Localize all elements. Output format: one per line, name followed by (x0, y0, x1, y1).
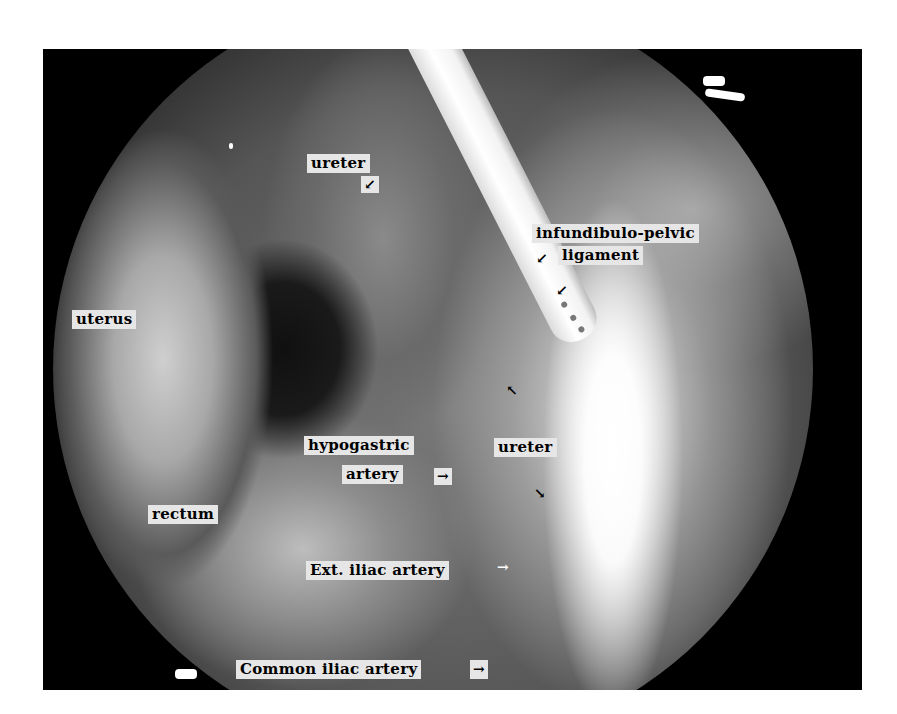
label-ureter-upper: ureter (307, 154, 370, 173)
arrow-ureter-upper-icon: ↙ (361, 176, 379, 193)
label-common-iliac-artery: Common iliac artery (236, 660, 421, 679)
arrow-ip-ligament-2-icon: ↙ (553, 282, 571, 299)
instrument-hole (569, 314, 577, 322)
arrow-ureter-up-icon: ↖ (503, 382, 521, 399)
label-uterus: uterus (72, 310, 136, 329)
light-reflection (175, 669, 197, 679)
label-hypogastric: hypogastric (304, 436, 414, 455)
laparoscopic-field (53, 49, 813, 690)
label-ureter-mid: ureter (494, 438, 557, 457)
label-ext-iliac-artery: Ext. iliac artery (306, 561, 449, 580)
label-ligament: ligament (558, 246, 643, 265)
light-reflection (229, 143, 233, 149)
arrow-ext-iliac-icon: → (494, 559, 512, 576)
label-rectum: rectum (148, 505, 218, 524)
light-reflection (703, 76, 725, 86)
light-reflection (705, 88, 746, 101)
label-artery: artery (342, 465, 403, 484)
arrow-common-iliac-icon: → (470, 660, 488, 679)
arrow-ureter-down-icon: ↘ (531, 485, 549, 502)
instrument-hole (560, 301, 568, 309)
endoscopic-photo-frame (43, 49, 862, 690)
label-infundibulo-pelvic: infundibulo-pelvic (532, 224, 699, 243)
arrow-hypogastric-icon: → (434, 468, 452, 485)
arrow-ip-ligament-icon: ↙ (533, 250, 551, 267)
instrument-hole (577, 325, 585, 333)
